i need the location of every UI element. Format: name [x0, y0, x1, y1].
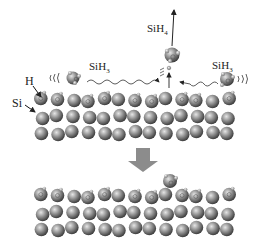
si-atom [113, 109, 127, 123]
si-atom [35, 127, 49, 141]
si-atom [83, 207, 97, 221]
si-atom [221, 112, 235, 126]
h-atom [231, 91, 235, 95]
top-si-slab [34, 91, 236, 142]
label-sih4: SiH4 [147, 23, 168, 37]
h-atom [90, 94, 94, 98]
si-atom [206, 191, 220, 205]
abstracted-h-atom [167, 66, 171, 70]
si-atom [51, 128, 65, 142]
si-atom [65, 125, 79, 139]
si-atom [66, 110, 80, 124]
bottom-si-slab [34, 187, 236, 238]
si-atom [127, 110, 141, 124]
si-atom [83, 111, 97, 125]
si-atom [82, 222, 96, 236]
diffusion-path-right [180, 82, 218, 86]
si-atom [159, 223, 173, 237]
diffusion-path-left [87, 80, 159, 84]
si-pointer-arrow [25, 105, 35, 112]
h-atom [153, 94, 157, 98]
label-h: H [25, 75, 34, 87]
si-atom [36, 112, 50, 126]
si-atom [65, 221, 79, 235]
si-atom [67, 190, 81, 204]
si-atom [176, 128, 190, 142]
si-atom [206, 95, 220, 109]
label-sih3-left: SiH3 [89, 61, 110, 75]
si-atom [129, 221, 143, 235]
si-atom [82, 126, 96, 140]
h-atom [153, 190, 157, 194]
sih4-molecule [165, 48, 181, 64]
si-atom [191, 206, 205, 220]
h-atom [231, 187, 235, 191]
si-atom [35, 223, 49, 237]
h-atom [198, 189, 202, 193]
adsorbed-sih3 [163, 174, 178, 188]
si-atom [113, 205, 127, 219]
diagram-canvas [0, 0, 259, 251]
h-atom [106, 187, 110, 191]
si-atom [50, 205, 64, 219]
h-atom [43, 187, 47, 191]
si-atom [112, 189, 126, 203]
si-atom [144, 111, 158, 125]
label-si: Si [12, 97, 22, 109]
si-atom [174, 109, 188, 123]
si-atom [190, 125, 204, 139]
si-atom [174, 205, 188, 219]
desorption-arrow [172, 10, 174, 46]
si-atom [220, 127, 234, 141]
h-atom [184, 188, 188, 192]
si-atom [144, 207, 158, 221]
si-atom [206, 222, 220, 236]
si-atom [97, 112, 111, 126]
si-atom [221, 208, 235, 222]
process-arrow-down-icon [128, 148, 158, 172]
si-atom [98, 223, 112, 237]
si-atom [160, 208, 174, 222]
si-atom [112, 93, 126, 107]
si-atom [66, 206, 80, 220]
h-atom [59, 92, 63, 96]
h-atom [184, 92, 188, 96]
vibration-marks-left-icon [50, 73, 59, 83]
vibration-marks-center-icon [160, 68, 164, 76]
label-sih3-right: SiH3 [212, 60, 233, 74]
h-atom [137, 93, 141, 97]
h-atom [90, 190, 94, 194]
si-atom [112, 128, 126, 142]
si-atom [159, 188, 173, 202]
h-atom [198, 93, 202, 97]
si-atom [127, 206, 141, 220]
vibration-marks-right-icon [238, 74, 248, 84]
si-atom [160, 112, 174, 126]
si-atom [176, 224, 190, 238]
h-atom [137, 189, 141, 193]
si-atom [159, 92, 173, 106]
sih3-right-molecule [220, 72, 235, 87]
si-atom [206, 126, 220, 140]
h-atom [59, 188, 63, 192]
si-atom [51, 224, 65, 238]
si-atom [112, 224, 126, 238]
si-atom [159, 127, 173, 141]
si-atom [129, 125, 143, 139]
si-atom [36, 208, 50, 222]
si-atom [97, 208, 111, 222]
si-atom [143, 126, 157, 140]
si-atom [50, 109, 64, 123]
si-atom [98, 127, 112, 141]
si-atom [191, 110, 205, 124]
si-atom [220, 223, 234, 237]
si-atom [67, 94, 81, 108]
sih3-left-molecule [67, 71, 82, 85]
si-atom [143, 222, 157, 236]
si-atom [190, 221, 204, 235]
h-atom [106, 91, 110, 95]
si-atom [205, 207, 219, 221]
si-atom [205, 111, 219, 125]
h-atom [43, 91, 47, 95]
